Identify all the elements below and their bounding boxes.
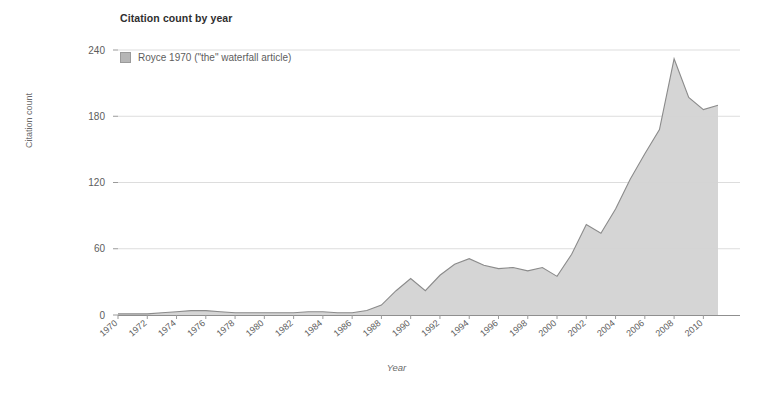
x-tick-label: 1972 [127,318,149,339]
x-tick-label: 2000 [537,318,559,339]
series-area-royce [118,59,718,315]
x-tick-label: 1996 [478,318,500,339]
x-tick-label: 1990 [390,318,412,339]
x-tick-label: 1974 [156,318,178,339]
x-tick-label: 1976 [185,318,207,339]
x-tick-label: 2010 [683,318,705,339]
x-axis-ticks: 1970197219741976197819801982198419861988… [98,315,705,338]
y-tick-label: 240 [88,45,105,56]
y-tick-label: 180 [88,111,105,122]
x-tick-label: 1984 [302,318,324,339]
x-tick-label: 1982 [273,318,295,339]
citation-chart: Citation count by year Royce 1970 ("the"… [0,0,763,393]
y-tick-label: 60 [94,243,106,254]
x-tick-label: 1994 [449,318,471,339]
x-tick-label: 1992 [419,318,441,339]
y-axis-ticks: 060120180240 [88,45,118,321]
x-tick-label: 1978 [215,318,237,339]
x-tick-label: 1980 [244,318,266,339]
x-tick-label: 2004 [595,318,617,339]
series-group [118,59,718,315]
x-tick-label: 1998 [507,318,529,339]
x-tick-label: 2006 [624,318,646,339]
y-tick-label: 0 [99,310,105,321]
x-tick-label: 1986 [332,318,354,339]
y-tick-label: 120 [88,177,105,188]
x-tick-label: 1970 [98,318,120,339]
x-tick-label: 1988 [361,318,383,339]
x-tick-label: 2002 [566,318,588,339]
x-tick-label: 2008 [654,318,676,339]
plot-area: 060120180240 197019721974197619781980198… [0,0,763,393]
